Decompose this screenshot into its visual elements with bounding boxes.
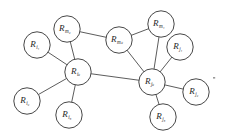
graph-edge-R_m2-R_mk (80, 32, 106, 38)
graph-edge-R_j3-R_jk (156, 95, 159, 105)
graph-node-R_i1[interactable]: Ri₁ (24, 32, 50, 58)
graph-edge-R_m1-R_jk (154, 37, 159, 69)
graph-edge-R_i2-R_ik (38, 79, 66, 95)
graph-figure: Ri₁Ri₂Ri₃RiₖRm₂RmₖRm₁Rj₁RjₖRj₂Rj₃ (0, 0, 231, 136)
scan-speck-1 (213, 77, 215, 79)
graph-canvas: Ri₁Ri₂Ri₃RiₖRm₂RmₖRm₁Rj₁RjₖRj₂Rj₃ (0, 0, 231, 136)
graph-node-R_m1[interactable]: Rm₁ (148, 11, 174, 37)
graph-edge-R_ik-R_m2 (70, 42, 74, 59)
graph-edge-R_mk-R_m1 (131, 29, 148, 36)
graph-node-R_mk[interactable]: Rmₖ (106, 27, 132, 53)
graph-edge-R_j1-R_jk (160, 57, 172, 71)
graph-node-R_jk[interactable]: Rjₖ (139, 69, 165, 95)
node-layer: Ri₁Ri₂Ri₃RiₖRm₂RmₖRm₁Rj₁RjₖRj₂Rj₃ (14, 11, 209, 130)
graph-edge-R_mk-R_jk (127, 50, 144, 71)
graph-node-R_m2[interactable]: Rm₂ (54, 16, 80, 42)
graph-edge-R_ik-R_jk (91, 74, 139, 80)
graph-node-R_j1[interactable]: Rj₁ (167, 34, 193, 60)
graph-node-R_j2[interactable]: Rj₂ (183, 79, 209, 105)
graph-node-R_ik[interactable]: Riₖ (65, 59, 91, 85)
artifact-layer (213, 77, 215, 79)
graph-edge-R_i1-R_ik (48, 52, 67, 64)
graph-node-R_i3[interactable]: Ri₃ (56, 102, 82, 128)
graph-node-R_i2[interactable]: Ri₂ (14, 88, 40, 114)
graph-node-R_j3[interactable]: Rj₃ (150, 104, 176, 130)
graph-edge-R_j2-R_jk (165, 85, 183, 89)
graph-edge-R_i3-R_ik (72, 85, 76, 102)
